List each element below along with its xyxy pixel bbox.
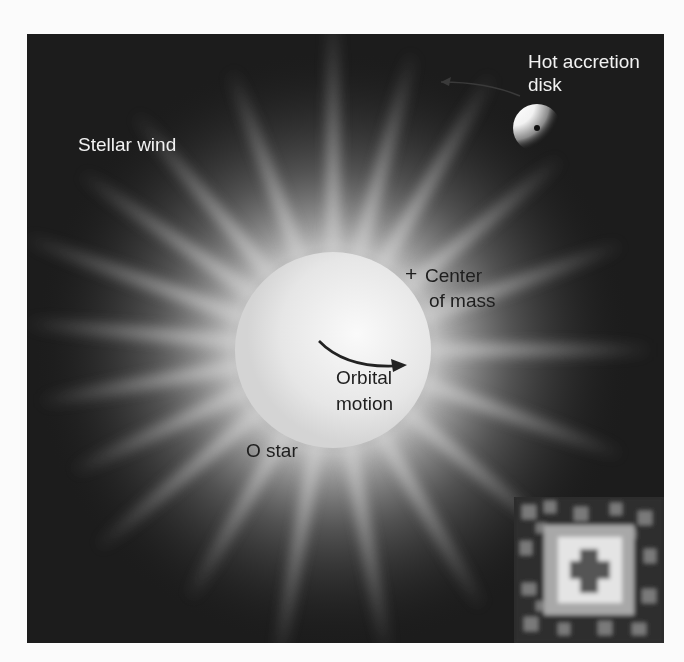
compact-object [534,125,540,131]
center-of-mass-label-line2: of mass [429,289,496,312]
hot-accretion-disk-label-line2: disk [528,73,562,96]
stellar-wind-label: Stellar wind [78,133,176,156]
figure-panel [27,34,664,643]
center-of-mass-label-line1: Center [425,264,482,287]
hot-accretion-disk-label-line1: Hot accretion [528,50,640,73]
o-star-body [235,252,431,448]
xray-inset-image [514,497,664,643]
center-of-mass-marker: + [405,262,417,285]
orbital-motion-label-line1: Orbital [336,366,392,389]
o-star-label: O star [246,439,298,462]
orbital-motion-label-line2: motion [336,392,393,415]
